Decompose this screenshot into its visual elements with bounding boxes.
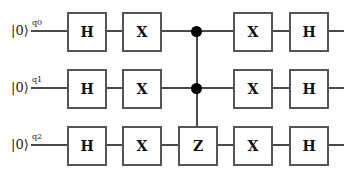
control-line (196, 31, 198, 126)
gate-x-q0: X (122, 12, 162, 52)
gate-z-q2: Z (178, 126, 218, 166)
qubit-init-q2: |0⟩ (11, 138, 29, 151)
gate-h2-q1: H (289, 69, 329, 109)
gate-h-q2: H (67, 126, 107, 166)
qubit-label-q2: q2 (32, 133, 42, 141)
gate-x2-q0: X (233, 12, 273, 52)
gate-x2-q2: X (233, 126, 273, 166)
qubit-label-q0: q0 (32, 19, 42, 27)
control-dot-q0 (191, 26, 202, 37)
control-dot-q1 (191, 83, 202, 94)
gate-h-q1: H (67, 69, 107, 109)
quantum-circuit-diagram: |0⟩ q0 |0⟩ q1 |0⟩ q2 H H H X X X Z X X X… (0, 0, 358, 175)
gate-h-q0: H (67, 12, 107, 52)
gate-x-q2: X (122, 126, 162, 166)
gate-x2-q1: X (233, 69, 273, 109)
qubit-init-q0: |0⟩ (11, 24, 29, 37)
gate-x-q1: X (122, 69, 162, 109)
gate-h2-q2: H (289, 126, 329, 166)
gate-h2-q0: H (289, 12, 329, 52)
qubit-init-q1: |0⟩ (11, 81, 29, 94)
qubit-label-q1: q1 (32, 76, 42, 84)
